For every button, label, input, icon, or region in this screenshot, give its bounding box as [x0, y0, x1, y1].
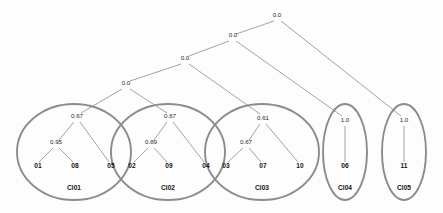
tree-edge	[130, 64, 181, 81]
cluster-name-cl05: Cl05	[397, 184, 411, 191]
tree-edge	[59, 148, 73, 162]
leaf-label-01: 01	[34, 162, 42, 169]
leaf-label-04: 04	[202, 162, 210, 169]
node-value-c3top: 0.61	[257, 114, 270, 121]
node-value-n2: 0.0	[229, 31, 238, 38]
tree-edge	[266, 124, 298, 162]
tree-edge	[154, 148, 167, 162]
leaf-label-02: 02	[128, 162, 136, 169]
tree-edges-group	[39, 21, 404, 162]
cluster-name-cl02: Cl02	[161, 184, 175, 191]
leaf-label-08: 08	[71, 162, 79, 169]
node-value-c2top: 0.67	[164, 112, 177, 119]
node-value-c1sub: 0.95	[50, 138, 63, 145]
tree-edge	[281, 21, 401, 116]
dendrogram-figure: 0.00.00.00.00.670.950.670.890.610.671.01…	[0, 0, 443, 213]
node-value-c2sub: 0.89	[145, 138, 158, 145]
cluster-name-cl01: Cl01	[67, 184, 81, 191]
tree-edge	[189, 64, 260, 114]
cluster-name-cl04: Cl04	[338, 184, 352, 191]
tree-edge	[236, 21, 274, 34]
tree-edge	[249, 148, 261, 162]
node-value-n4: 0.0	[122, 79, 131, 86]
leaf-label-09: 09	[165, 162, 173, 169]
leaf-label-07: 07	[259, 162, 267, 169]
node-value-c1top: 0.67	[71, 112, 84, 119]
tree-edge	[189, 41, 229, 56]
leaf-label-06: 06	[341, 162, 349, 169]
tree-edge	[39, 148, 53, 162]
node-value-labels-group: 0.00.00.00.00.670.950.670.890.610.671.01…	[50, 11, 409, 145]
dendrogram-canvas: 0.00.00.00.00.670.950.670.890.610.671.01…	[0, 0, 443, 213]
tree-edge	[228, 148, 243, 162]
node-value-root: 0.0	[273, 11, 282, 18]
tree-edge	[173, 122, 204, 162]
leaf-label-03: 03	[222, 162, 230, 169]
node-value-c3sub: 0.67	[240, 138, 253, 145]
node-value-c4top: 1.0	[341, 116, 350, 123]
leaf-label-05: 05	[107, 162, 115, 169]
leaf-label-11: 11	[401, 162, 408, 169]
node-value-c5top: 1.0	[400, 116, 409, 123]
tree-edge	[130, 89, 167, 113]
tree-edge	[80, 122, 109, 162]
cluster-name-cl03: Cl03	[255, 184, 269, 191]
tree-edge	[134, 148, 148, 162]
leaf-label-10: 10	[296, 162, 304, 169]
node-value-n3: 0.0	[181, 54, 190, 61]
